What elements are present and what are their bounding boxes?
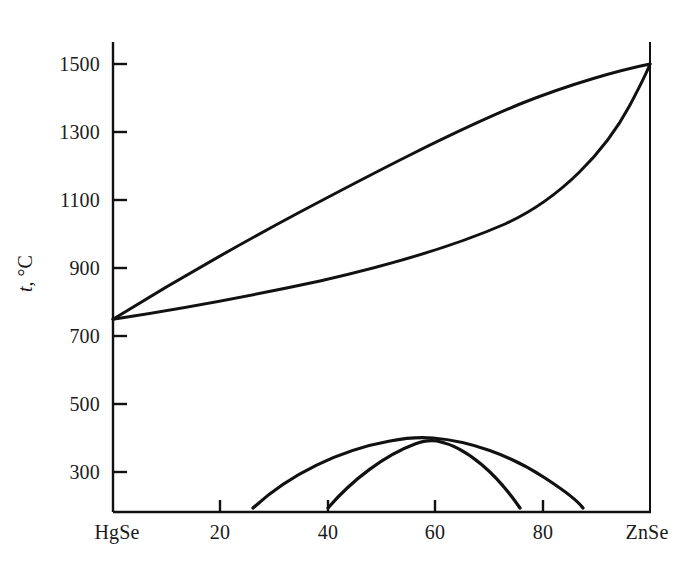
y-tick-label-900: 900	[32, 257, 100, 280]
y-tick-label-300: 300	[32, 461, 100, 484]
miscibility-gap-binodal-curve	[253, 438, 583, 508]
y-axis-ticks	[113, 64, 127, 472]
liquidus-curve	[113, 64, 650, 319]
y-tick-label-500: 500	[32, 393, 100, 416]
x-tick-label-40: 40	[318, 521, 338, 544]
x-tick-label-20: 20	[210, 521, 230, 544]
phase-diagram-figure: t, °C 1500 1300 1100 900 700 500 300 HgS…	[0, 0, 688, 575]
y-axis-title-symbol: t	[14, 286, 36, 292]
x-tick-label-60: 60	[425, 521, 445, 544]
x-tick-label-80: 80	[533, 521, 553, 544]
x-tick-label-znse: ZnSe	[625, 521, 668, 544]
solidus-curve	[113, 64, 650, 319]
y-tick-label-1100: 1100	[32, 189, 100, 212]
x-axis-ticks	[220, 500, 543, 512]
y-tick-label-1500: 1500	[32, 53, 100, 76]
x-tick-label-hgse: HgSe	[94, 521, 139, 544]
phase-diagram-plot	[0, 0, 688, 575]
y-tick-label-1300: 1300	[32, 121, 100, 144]
y-tick-label-700: 700	[32, 325, 100, 348]
